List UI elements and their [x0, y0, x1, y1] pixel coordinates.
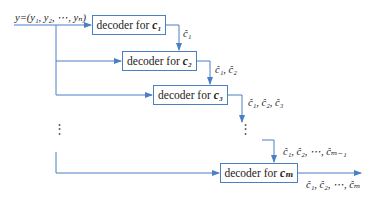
decoder-target: c₂ [183, 55, 192, 67]
decoder-target: cₘ [280, 166, 293, 180]
input-vector-label: y=(y₁, y₂, ⋯, yₙ) [15, 11, 86, 23]
edge-label-output: ĉ₁, ĉ₂, ⋯, ĉₘ [306, 178, 360, 190]
edge-label-4: ĉ₁, ĉ₂, ⋯, ĉₘ₋₁ [283, 145, 347, 157]
decoder-label: decoder for [127, 55, 180, 67]
decoder-box-c3: decoder forc₃ [153, 85, 228, 105]
decoder-label: decoder for [224, 167, 277, 179]
edge-label-2: ĉ₁, ĉ₂ [215, 64, 237, 75]
decoder-box-c1: decoder forc₁ [92, 15, 166, 35]
ellipsis-left: ⋮ [53, 127, 66, 131]
decoder-target: c₃ [214, 89, 223, 101]
decoder-label: decoder for [97, 19, 150, 31]
edge-label-3: ĉ₁, ĉ₂, ĉ₃ [248, 97, 283, 108]
decoder-box-c2: decoder forc₂ [122, 51, 197, 71]
decoder-label: decoder for [158, 89, 211, 101]
decoder-target: c₁ [152, 19, 161, 31]
edge-label-1: ĉ₁ [183, 28, 191, 39]
decoder-box-cM: decoder forcₘ [220, 163, 298, 183]
ellipsis-right: ⋮ [239, 127, 252, 131]
